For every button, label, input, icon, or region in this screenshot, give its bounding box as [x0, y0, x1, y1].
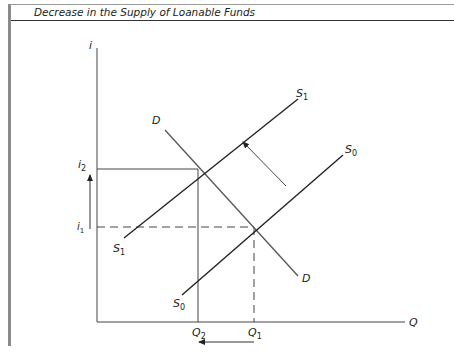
i1-label: i1	[77, 221, 84, 235]
y-axis-label: i	[89, 39, 92, 52]
d-top-label: D	[152, 114, 160, 127]
q2-label: Q2	[192, 326, 206, 341]
s0-bottom-label: S0	[173, 297, 185, 312]
supply-shift-arrow	[243, 142, 286, 186]
supply-demand-chart: i Q i2 i1 Q2 Q1 S1 S1 S0 S0 D D	[0, 0, 454, 354]
s1-bottom-label: S1	[113, 242, 125, 257]
x-axis-label: Q	[409, 316, 418, 329]
i2-label: i2	[78, 158, 86, 173]
d-bottom-label: D	[302, 272, 310, 285]
s1-top-label: S1	[296, 87, 308, 102]
s0-top-label: S0	[345, 143, 357, 158]
q1-label: Q1	[248, 326, 262, 341]
